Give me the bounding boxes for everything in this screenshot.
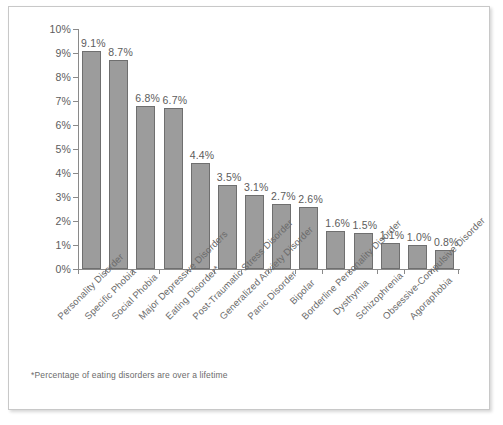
chart-frame: 0%1%2%3%4%5%6%7%8%9%10%9.1%8.7%6.8%6.7%4… bbox=[8, 6, 490, 410]
y-tick-mark bbox=[73, 77, 78, 78]
bar bbox=[218, 185, 237, 269]
bar bbox=[326, 231, 345, 269]
y-tick-mark bbox=[73, 197, 78, 198]
y-tick-label: 9% bbox=[55, 47, 71, 59]
x-tick-mark bbox=[322, 269, 323, 274]
bar-value-label: 1.6% bbox=[325, 217, 350, 229]
y-tick-label: 7% bbox=[55, 95, 71, 107]
y-tick-mark bbox=[73, 245, 78, 246]
bar bbox=[136, 106, 155, 269]
bar-value-label: 3.5% bbox=[217, 171, 242, 183]
y-tick-label: 4% bbox=[55, 167, 71, 179]
chart-footnote: *Percentage of eating disorders are over… bbox=[31, 370, 228, 380]
bar bbox=[408, 245, 427, 269]
x-tick-mark bbox=[458, 269, 459, 274]
y-tick-mark bbox=[73, 221, 78, 222]
y-tick-mark bbox=[73, 125, 78, 126]
bar-value-label: 9.1% bbox=[81, 37, 106, 49]
x-tick-mark bbox=[78, 269, 79, 274]
bar bbox=[164, 108, 183, 269]
bar-chart: 0%1%2%3%4%5%6%7%8%9%10%9.1%8.7%6.8%6.7%4… bbox=[9, 7, 491, 411]
y-tick-label: 10% bbox=[49, 23, 71, 35]
y-tick-label: 5% bbox=[55, 143, 71, 155]
y-tick-mark bbox=[73, 29, 78, 30]
y-tick-label: 1% bbox=[55, 239, 71, 251]
bar-value-label: 8.7% bbox=[108, 46, 133, 58]
bar bbox=[381, 243, 400, 269]
bar-value-label: 3.1% bbox=[244, 181, 269, 193]
x-tick-mark bbox=[404, 269, 405, 274]
bar-value-label: 1.5% bbox=[353, 219, 378, 231]
y-tick-label: 8% bbox=[55, 71, 71, 83]
y-tick-mark bbox=[73, 53, 78, 54]
bar-value-label: 6.8% bbox=[135, 92, 160, 104]
bar-value-label: 2.6% bbox=[298, 193, 323, 205]
y-tick-mark bbox=[73, 101, 78, 102]
bar-value-label: 6.7% bbox=[163, 94, 188, 106]
bar-value-label: 2.7% bbox=[271, 190, 296, 202]
bar bbox=[109, 60, 128, 269]
bar-value-label: 4.4% bbox=[190, 149, 215, 161]
y-tick-label: 3% bbox=[55, 191, 71, 203]
x-tick-mark bbox=[377, 269, 378, 274]
plot-area: 0%1%2%3%4%5%6%7%8%9%10%9.1%8.7%6.8%6.7%4… bbox=[78, 29, 458, 269]
y-tick-label: 0% bbox=[55, 263, 71, 275]
y-tick-label: 2% bbox=[55, 215, 71, 227]
bar-value-label: 1.0% bbox=[407, 231, 432, 243]
bar bbox=[82, 51, 101, 269]
y-tick-label: 6% bbox=[55, 119, 71, 131]
x-tick-mark bbox=[159, 269, 160, 274]
y-tick-mark bbox=[73, 149, 78, 150]
y-tick-mark bbox=[73, 173, 78, 174]
